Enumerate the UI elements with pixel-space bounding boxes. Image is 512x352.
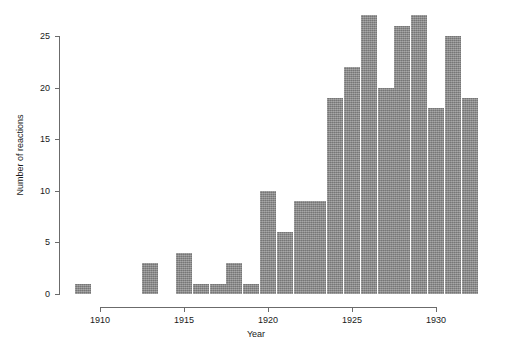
x-tick-mark-1910 (100, 307, 101, 312)
bar (75, 284, 91, 294)
x-tick-label-1920: 1920 (243, 315, 293, 325)
x-tick-label-1915: 1915 (159, 315, 209, 325)
x-tick-label-1910: 1910 (75, 315, 125, 325)
bar (361, 15, 377, 294)
x-axis-title: Year (0, 329, 512, 339)
y-tick-mark-25 (55, 36, 60, 37)
y-tick-mark-10 (55, 191, 60, 192)
bar (327, 98, 343, 294)
bar (243, 284, 259, 294)
bar (445, 36, 461, 294)
x-tick-label-1930: 1930 (411, 315, 461, 325)
bar (277, 232, 293, 294)
bar (176, 253, 192, 294)
x-tick-mark-1920 (268, 307, 269, 312)
bar (411, 15, 427, 294)
y-tick-label-5: 5 (10, 238, 50, 247)
bar (193, 284, 209, 294)
bar (226, 263, 242, 294)
y-axis-title: Number of reactions (15, 85, 25, 225)
bar (428, 108, 444, 294)
bar (142, 263, 158, 294)
bar (378, 88, 394, 294)
bar (344, 67, 360, 294)
y-tick-label-25: 25 (10, 32, 50, 41)
y-axis-line (59, 36, 60, 295)
x-tick-mark-1925 (352, 307, 353, 312)
bar (260, 191, 276, 294)
histogram-chart: 0 5 10 15 20 25 1910 1915 1920 1925 1930… (0, 0, 512, 352)
bar (462, 98, 478, 294)
bar (294, 201, 310, 294)
x-tick-mark-1930 (436, 307, 437, 312)
x-tick-label-1925: 1925 (327, 315, 377, 325)
y-tick-mark-5 (55, 242, 60, 243)
y-tick-mark-0 (55, 294, 60, 295)
plot-area (60, 16, 450, 294)
x-tick-mark-1915 (184, 307, 185, 312)
y-tick-label-0: 0 (10, 290, 50, 299)
y-tick-mark-20 (55, 88, 60, 89)
y-tick-mark-15 (55, 139, 60, 140)
bar (310, 201, 326, 294)
bar (394, 26, 410, 294)
bar (210, 284, 226, 294)
